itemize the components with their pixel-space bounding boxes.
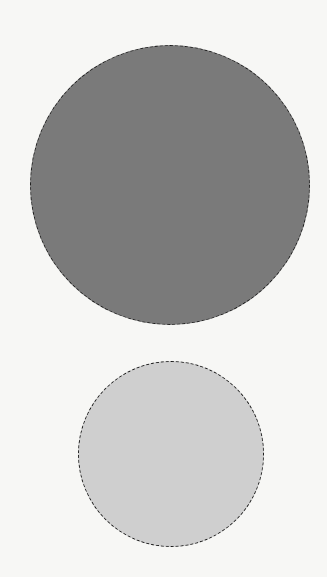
large-circle xyxy=(30,45,310,325)
small-circle xyxy=(78,361,264,547)
diagram-canvas xyxy=(0,0,327,577)
